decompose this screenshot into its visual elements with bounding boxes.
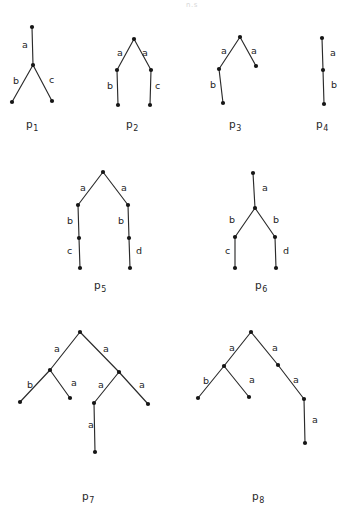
- tree-node-leaf-left: [78, 266, 82, 270]
- edge-label: a: [88, 419, 94, 430]
- caption-base: p: [94, 279, 101, 291]
- tree-node-root: [78, 330, 82, 334]
- caption-base: p: [229, 118, 236, 130]
- tree-edge: [275, 237, 276, 268]
- edge-label: c: [49, 74, 54, 85]
- tree-node-m-left: [77, 236, 81, 240]
- tree-node-root: [320, 36, 324, 40]
- caption-subscript: 5: [101, 285, 106, 294]
- tree-node-leaf-left: [116, 103, 120, 107]
- edge-label: a: [249, 374, 255, 385]
- edge-label: a: [142, 47, 148, 58]
- tree-node-v-right: [149, 68, 153, 72]
- tree-node-v-left: [76, 203, 80, 207]
- tree-p5: aabbcdp5: [67, 170, 142, 294]
- tree-node-m-right: [127, 236, 131, 240]
- tree-node-leaf-bottom: [303, 441, 307, 445]
- caption-base: p: [252, 490, 259, 502]
- edge-label: a: [229, 342, 235, 353]
- tree-node-root: [101, 170, 105, 174]
- tree-node-v-mid: [92, 401, 96, 405]
- tree-node-leaf-rr: [146, 402, 150, 406]
- tree-node-leaf-right: [254, 64, 258, 68]
- tree-caption-p5: p5: [94, 279, 106, 294]
- caption-subscript: 3: [236, 124, 241, 133]
- edge-label: a: [22, 39, 28, 50]
- edge-label: b: [118, 215, 124, 226]
- tree-node-leaf-right: [50, 99, 54, 103]
- edge-label: b: [13, 75, 19, 86]
- tree-edge: [32, 27, 33, 65]
- tree-node-root: [249, 330, 253, 334]
- tree-node-leaf-bottom: [221, 101, 225, 105]
- tree-node-v-right: [276, 363, 280, 367]
- tree-edge: [117, 70, 118, 105]
- tree-p8: aabaaap8: [196, 330, 318, 505]
- tree-p4: abp4: [316, 36, 337, 133]
- tree-edge: [80, 332, 119, 372]
- tree-node-leaf-right: [274, 266, 278, 270]
- edge-label: a: [251, 45, 257, 56]
- tree-caption-p4: p4: [316, 118, 328, 133]
- caption-base: p: [82, 490, 89, 502]
- edge-label: b: [27, 379, 33, 390]
- tree-node-v-rr: [302, 397, 306, 401]
- caption-subscript: 8: [259, 496, 264, 505]
- tree-caption-p1: p1: [26, 118, 38, 133]
- tree-node-v-left: [48, 368, 52, 372]
- tree-edge: [255, 208, 275, 237]
- caption-base: p: [255, 279, 262, 291]
- tree-node-leaf-ll: [196, 396, 200, 400]
- tree-node-v-right: [273, 235, 277, 239]
- edge-label: a: [121, 182, 127, 193]
- caption-subscript: 7: [89, 496, 94, 505]
- edge-label: b: [229, 214, 235, 225]
- tree-node-v-left: [222, 364, 226, 368]
- tree-node-root: [238, 35, 242, 39]
- tree-node-leaf-right: [128, 266, 132, 270]
- tree-node-v-right: [117, 370, 121, 374]
- edge-label: b: [67, 215, 73, 226]
- edge-label: a: [312, 414, 318, 425]
- tree-node-v-left: [217, 67, 221, 71]
- edge-label: a: [71, 377, 77, 388]
- tree-node-root: [30, 25, 34, 29]
- edge-label: c: [225, 245, 230, 256]
- tree-p3: aabp3: [210, 35, 258, 133]
- caption-base: p: [316, 118, 323, 130]
- tree-edge: [322, 38, 323, 70]
- tree-p2: aabcp2: [107, 37, 160, 133]
- tree-p6: abbcdp6: [225, 171, 289, 294]
- edge-label: a: [262, 182, 268, 193]
- edge-label: a: [221, 45, 227, 56]
- tree-edge: [129, 238, 130, 268]
- tree-edge: [50, 370, 70, 398]
- tree-node-leaf: [322, 102, 326, 106]
- caption-base: p: [126, 118, 133, 130]
- edge-label: d: [283, 245, 289, 256]
- caption-subscript: 4: [323, 124, 328, 133]
- edge-label: c: [155, 80, 160, 91]
- tree-node-v-right: [126, 203, 130, 207]
- caption-base: p: [26, 118, 33, 130]
- tree-node-leaf-left: [10, 100, 14, 104]
- edge-label: a: [272, 342, 278, 353]
- edge-label: b: [203, 375, 209, 386]
- edge-label: a: [139, 379, 145, 390]
- edge-label: a: [54, 343, 60, 354]
- tree-edge: [78, 205, 79, 238]
- tree-edge: [128, 205, 129, 238]
- edge-label: b: [273, 214, 279, 225]
- tree-node-leaf-right: [148, 103, 152, 107]
- edge-label: c: [67, 245, 72, 256]
- tree-edge: [235, 208, 255, 237]
- tree-p7: aabaaaap7: [18, 330, 150, 505]
- figure-sheet: n.s abcp1aabcp2aabp3abp4aabbcdp5abbcdp6a…: [0, 0, 357, 516]
- tree-node-leaf-lr: [247, 395, 251, 399]
- edge-label: b: [331, 79, 337, 90]
- tree-node-leaf-left: [233, 266, 237, 270]
- tree-caption-p3: p3: [229, 118, 241, 133]
- tree-node-leaf-lr: [68, 396, 72, 400]
- edge-label: a: [80, 182, 86, 193]
- tree-diagram-canvas: abcp1aabcp2aabp3abp4aabbcdp5abbcdp6aabaa…: [0, 0, 357, 516]
